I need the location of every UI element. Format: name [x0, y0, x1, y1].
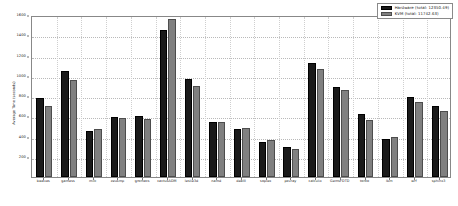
x-axis-tick-label: namd [211, 180, 221, 183]
bar-hardware [61, 71, 68, 177]
x-axis-tick-mark [93, 178, 94, 180]
bar-kvm [119, 118, 126, 177]
bar-kvm [341, 90, 348, 177]
bar-hardware [135, 116, 142, 177]
bar-group [403, 17, 428, 177]
x-axis-tick-labels: bwavesgamessmilczeusmpgromacscactusADMle… [31, 179, 451, 193]
x-axis-tick-label: gamess [61, 180, 74, 183]
x-axis-tick-mark [68, 178, 69, 180]
x-axis-tick-mark [414, 178, 415, 180]
x-axis-tick-mark [43, 178, 44, 180]
bar-kvm [168, 19, 175, 177]
legend-swatch-kvm [381, 12, 392, 16]
x-axis-tick-mark [290, 178, 291, 180]
bar-group [328, 17, 353, 177]
bar-kvm [366, 120, 373, 177]
x-axis-tick-mark [167, 178, 168, 180]
y-axis-tick-label: 1200 [16, 55, 26, 59]
bar-hardware [358, 114, 365, 177]
bar-kvm [144, 119, 151, 177]
plot-area [31, 16, 451, 178]
x-axis-tick-label: soplex [260, 180, 271, 183]
bar-kvm [317, 69, 324, 177]
x-axis-tick-mark [340, 178, 341, 180]
x-axis-tick-label: zeusmp [111, 180, 125, 183]
x-axis-tick-label: GemsFDTD [330, 180, 349, 183]
bar-group [32, 17, 57, 177]
x-axis-tick-label: bwaves [37, 180, 50, 183]
bar-group [230, 17, 255, 177]
bar-group [304, 17, 329, 177]
bar-group [205, 17, 230, 177]
bar-hardware [36, 98, 43, 177]
legend-item-kvm: KVM (total: 11742.63) [381, 12, 449, 16]
x-axis-tick-mark [266, 178, 267, 180]
x-axis-tick-mark [117, 178, 118, 180]
bar-group [57, 17, 82, 177]
x-axis-tick-label: wrf [411, 180, 417, 183]
x-axis-tick-label: cactusADM [157, 180, 176, 183]
bar-hardware [111, 117, 118, 177]
bar-kvm [193, 86, 200, 177]
x-axis-tick-label: tonto [360, 180, 369, 183]
y-axis-tick-label: 800 [19, 95, 26, 99]
y-axis-tick-label: 600 [19, 115, 26, 119]
bar-group [81, 17, 106, 177]
bar-kvm [292, 149, 299, 177]
x-axis-tick-label: calculix [309, 180, 322, 183]
bar-kvm [94, 129, 101, 177]
legend-item-hardware: Hardware (total: 12350.49) [381, 6, 449, 10]
chart-figure: 2004006008001000120014001600 Average Tim… [0, 0, 458, 206]
y-axis-title: Average Time (seconds) [13, 58, 17, 148]
bar-group [279, 17, 304, 177]
bar-group [131, 17, 156, 177]
y-axis-tick-mark [27, 16, 29, 17]
bar-hardware [209, 122, 216, 177]
bar-hardware [308, 63, 315, 177]
y-axis-tick-mark [27, 157, 29, 158]
bar-kvm [415, 102, 422, 177]
bar-kvm [218, 122, 225, 177]
bar-group [353, 17, 378, 177]
bar-group [378, 17, 403, 177]
x-axis-tick-label: milc [89, 180, 96, 183]
chart-legend: Hardware (total: 12350.49) KVM (total: 1… [377, 3, 453, 19]
bar-hardware [283, 147, 290, 177]
y-axis-tick-mark [27, 56, 29, 57]
legend-label-hardware: Hardware (total: 12350.49) [395, 6, 449, 10]
bar-hardware [185, 79, 192, 177]
y-axis-tick-mark [27, 76, 29, 77]
bar-hardware [259, 142, 266, 177]
bar-hardware [86, 131, 93, 177]
bar-kvm [45, 106, 52, 177]
bar-kvm [440, 111, 447, 177]
x-axis-tick-label: dealII [236, 180, 246, 183]
y-axis-tick-mark [27, 117, 29, 118]
bar-group [156, 17, 181, 177]
bar-hardware [160, 30, 167, 177]
bar-hardware [382, 139, 389, 177]
y-axis-tick-label: 1000 [16, 75, 26, 79]
x-axis-tick-mark [315, 178, 316, 180]
bar-kvm [70, 80, 77, 177]
legend-swatch-hardware [381, 6, 392, 10]
legend-label-kvm: KVM (total: 11742.63) [395, 12, 439, 16]
x-axis-tick-label: sphinx3 [432, 180, 446, 183]
x-axis-tick-label: gromacs [135, 180, 150, 183]
x-axis-tick-mark [365, 178, 366, 180]
y-axis-tick-label: 400 [19, 136, 26, 140]
x-axis-tick-label: lbm [386, 180, 393, 183]
bar-group [254, 17, 279, 177]
bar-kvm [391, 137, 398, 178]
bar-hardware [234, 129, 241, 177]
y-axis-tick-label: 200 [19, 156, 26, 160]
bar-group [180, 17, 205, 177]
x-axis-tick-mark [241, 178, 242, 180]
x-axis-tick-mark [216, 178, 217, 180]
y-axis-tick-mark [27, 36, 29, 37]
bar-hardware [407, 97, 414, 177]
bar-group [427, 17, 452, 177]
y-axis-tick-label: 1600 [16, 14, 26, 18]
x-axis-tick-mark [142, 178, 143, 180]
bar-hardware [333, 87, 340, 177]
